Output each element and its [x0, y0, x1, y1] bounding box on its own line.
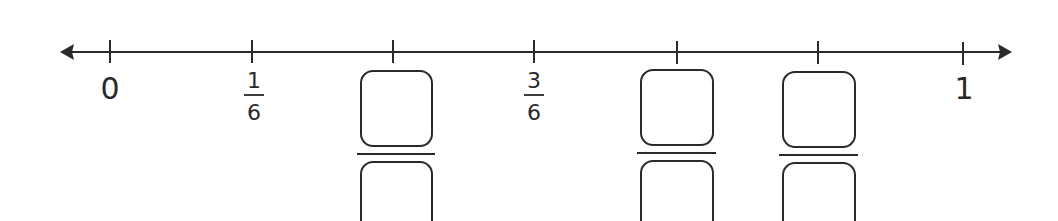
- numerator-answer-box[interactable]: [783, 72, 855, 147]
- numerator-answer-box[interactable]: [361, 71, 432, 146]
- denominator-answer-box[interactable]: [641, 161, 713, 221]
- denominator-answer-box[interactable]: [783, 163, 855, 221]
- label-three-sixths-denominator: 6: [527, 100, 541, 125]
- numerator-answer-box[interactable]: [641, 70, 713, 145]
- denominator-answer-box[interactable]: [361, 162, 432, 221]
- label-zero: 0: [100, 71, 119, 106]
- label-three-sixths-numerator: 3: [527, 68, 541, 93]
- right-arrow-icon: [998, 44, 1012, 60]
- label-one: 1: [954, 71, 973, 106]
- blank-fraction-5-6: [779, 72, 858, 221]
- blank-fraction-2-6: [357, 71, 435, 221]
- left-arrow-icon: [60, 44, 74, 60]
- number-line-diagram: 0 1 6 3 6 1: [0, 0, 1058, 221]
- blank-fraction-4-6: [637, 70, 716, 221]
- label-one-sixth-numerator: 1: [247, 68, 261, 93]
- label-one-sixth-denominator: 6: [247, 100, 261, 125]
